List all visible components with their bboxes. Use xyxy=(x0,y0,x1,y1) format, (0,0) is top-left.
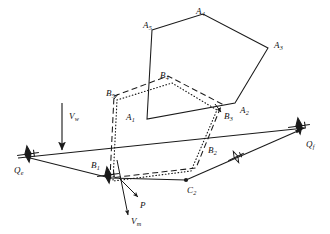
label-B1: B1 xyxy=(91,161,100,170)
aircraft-icon-mid xyxy=(226,148,247,167)
label-Vw: Vw xyxy=(69,112,79,121)
label-A3: A3 xyxy=(274,41,283,50)
label-A1: A1 xyxy=(126,113,135,122)
label-P: P xyxy=(140,201,146,210)
node-dot-C2 xyxy=(184,178,188,182)
label-B5: B5 xyxy=(106,89,115,98)
label-Qe: Qe xyxy=(14,166,23,175)
label-B2: B2 xyxy=(208,146,217,155)
point-P-indicator xyxy=(119,178,138,197)
label-B4: B4 xyxy=(160,71,169,80)
aircraft-icon-Qf xyxy=(287,117,311,136)
label-Qf: Qf xyxy=(306,140,314,149)
track-leg-C2-Qf xyxy=(186,130,300,180)
label-Vm: Vm xyxy=(131,217,141,226)
search-area-pentagon xyxy=(147,14,268,119)
label-A5: A5 xyxy=(143,21,152,30)
sensor-baseline-Qe-Qf xyxy=(18,128,305,158)
label-A2: A2 xyxy=(240,106,249,115)
label-B3: B3 xyxy=(224,112,233,121)
diagram-vector-layer xyxy=(0,0,330,234)
label-C2: C2 xyxy=(187,186,196,195)
label-A4: A4 xyxy=(196,7,205,16)
diagram-canvas: A1 A2 A3 A4 A5 B1 B2 B3 B4 B5 C2 P Qe Qf… xyxy=(0,0,330,234)
dashed-coverage-polygon xyxy=(110,76,222,178)
aircraft-icon-Qe xyxy=(16,145,40,164)
dotted-coverage-polygon xyxy=(113,83,217,181)
target-velocity-vector xyxy=(117,160,128,215)
